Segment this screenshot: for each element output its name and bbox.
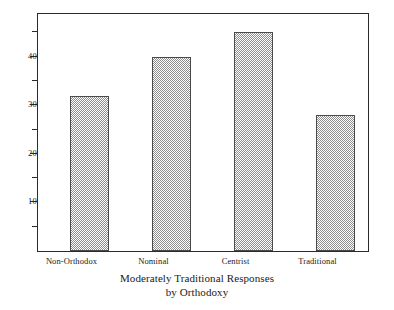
bar-centrist	[234, 32, 273, 251]
x-axis-label-centrist: Centrist	[193, 256, 278, 266]
bar-traditional	[316, 115, 355, 251]
bar-nominal	[152, 57, 191, 251]
y-axis-label-10: 10	[11, 197, 37, 206]
caption-line-2: by Orthodoxy	[0, 286, 394, 300]
bar-non-orthodox	[70, 96, 109, 251]
y-axis-label-20: 20	[11, 149, 37, 158]
y-axis-label-40: 40	[11, 52, 37, 61]
chart-caption: Moderately Traditional Responses by Orth…	[0, 272, 394, 299]
x-axis-label-nominal: Nominal	[111, 256, 196, 266]
caption-line-1: Moderately Traditional Responses	[0, 272, 394, 286]
y-axis-label-30: 30	[11, 100, 37, 109]
x-axis-label-non-orthodox: Non-Orthodox	[29, 256, 114, 266]
plot-area	[37, 13, 369, 252]
bar-chart-figure: 40 30 20 10 Non-Orthodox Nominal Centris…	[0, 0, 394, 310]
x-axis-label-traditional: Traditional	[275, 256, 360, 266]
